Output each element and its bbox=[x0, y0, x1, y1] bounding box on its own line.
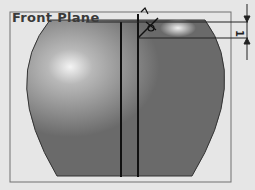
front-plane-label[interactable]: Front Plane bbox=[12, 10, 100, 25]
dimension-value[interactable]: 1 bbox=[234, 30, 245, 37]
graphics-viewport[interactable]: Front Plane 1 bbox=[0, 0, 255, 190]
barrel-body[interactable] bbox=[27, 20, 225, 176]
model-canvas[interactable] bbox=[0, 0, 255, 190]
